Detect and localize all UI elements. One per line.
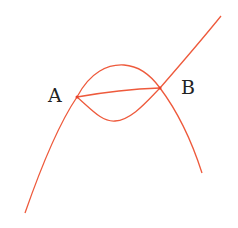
point-B [159, 87, 162, 90]
label-A: A [48, 86, 62, 105]
rising-curve [25, 16, 221, 213]
label-B: B [181, 78, 195, 97]
chord-AB [77, 88, 160, 97]
point-A [76, 96, 79, 99]
diagram-canvas [0, 0, 238, 228]
